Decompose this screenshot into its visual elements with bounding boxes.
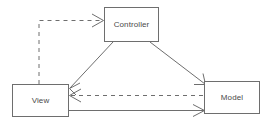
edge-controller-to-model xyxy=(150,42,206,85)
node-model-label: Model xyxy=(221,94,243,102)
edge-view-to-controller xyxy=(39,14,104,84)
edge-controller-to-view xyxy=(70,42,114,95)
edge-model-to-view xyxy=(70,89,204,102)
mvc-diagram-canvas: Controller View Model xyxy=(0,0,269,128)
node-view[interactable]: View xyxy=(12,84,69,117)
node-view-label: View xyxy=(32,97,50,105)
node-controller-label: Controller xyxy=(114,21,150,29)
edge-view-to-model xyxy=(69,105,205,117)
node-model[interactable]: Model xyxy=(204,81,260,114)
node-controller[interactable]: Controller xyxy=(104,7,159,42)
